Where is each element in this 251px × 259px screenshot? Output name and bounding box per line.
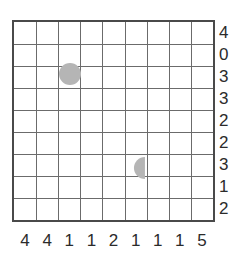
circle-marker[interactable] bbox=[59, 63, 81, 85]
row-label-1: 4 bbox=[219, 24, 239, 42]
half-circle-marker[interactable] bbox=[134, 157, 145, 179]
column-label-5: 2 bbox=[103, 231, 125, 251]
row-label-7: 3 bbox=[219, 156, 239, 174]
row-label-3: 3 bbox=[219, 68, 239, 86]
row-label-2: 0 bbox=[219, 46, 239, 64]
row-label-9: 2 bbox=[219, 200, 239, 218]
row-label-6: 2 bbox=[219, 134, 239, 152]
column-label-2: 4 bbox=[36, 231, 58, 251]
row-label-8: 1 bbox=[219, 178, 239, 196]
column-label-7: 1 bbox=[147, 231, 169, 251]
column-label-3: 1 bbox=[58, 231, 80, 251]
column-label-4: 1 bbox=[80, 231, 102, 251]
grid-area[interactable] bbox=[12, 20, 215, 222]
row-label-5: 2 bbox=[219, 112, 239, 130]
column-label-8: 1 bbox=[169, 231, 191, 251]
shape-layer bbox=[14, 22, 213, 220]
column-label-6: 1 bbox=[125, 231, 147, 251]
puzzle-grid-figure: 403322312 441121115 bbox=[0, 0, 251, 259]
row-label-4: 3 bbox=[219, 90, 239, 108]
column-label-1: 4 bbox=[14, 231, 36, 251]
column-label-9: 5 bbox=[191, 231, 213, 251]
